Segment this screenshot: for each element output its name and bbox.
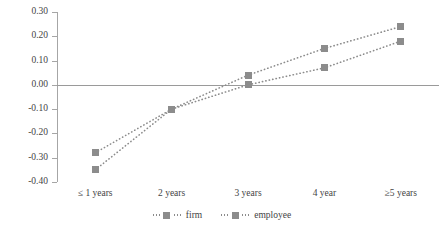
y-axis-line (57, 12, 58, 182)
y-tick (52, 182, 57, 183)
y-tick (52, 36, 57, 37)
y-tick (52, 133, 57, 134)
x-tick-label: ≤ 1 years (78, 188, 113, 198)
y-tick-label: 0.20 (8, 31, 48, 41)
data-point-employee (397, 38, 404, 45)
y-tick-label: 0.10 (8, 56, 48, 66)
x-tick-label: ≥5 years (385, 188, 417, 198)
y-tick-label: 0.00 (8, 80, 48, 90)
series-line-firm (95, 27, 401, 153)
y-tick (52, 109, 57, 110)
series-line-employee (95, 41, 401, 170)
x-tick-label: 2 years (158, 188, 185, 198)
data-point-firm (397, 23, 404, 30)
legend-item-firm[interactable]: firm (152, 210, 202, 220)
y-tick (52, 158, 57, 159)
data-point-firm (321, 45, 328, 52)
legend-label-firm: firm (186, 210, 202, 220)
data-point-firm (245, 72, 252, 79)
square-marker-icon (232, 212, 239, 219)
y-tick-label: -0.20 (8, 128, 48, 138)
x-tick-label: 4 year (313, 188, 336, 198)
x-tick-label: 3 years (234, 188, 261, 198)
y-tick (52, 61, 57, 62)
data-point-employee (92, 166, 99, 173)
legend-swatch-employee (220, 211, 250, 219)
y-tick-label: -0.10 (8, 104, 48, 114)
data-point-employee (245, 81, 252, 88)
chart-legend: firm employee (0, 210, 443, 220)
series-lines (0, 0, 443, 233)
data-point-employee (168, 106, 175, 113)
square-marker-icon (163, 212, 170, 219)
y-tick (52, 12, 57, 13)
y-tick-label: -0.30 (8, 153, 48, 163)
y-tick-label: -0.40 (8, 177, 48, 187)
legend-label-employee: employee (254, 210, 291, 220)
data-point-employee (321, 64, 328, 71)
legend-item-employee[interactable]: employee (220, 210, 291, 220)
legend-swatch-firm (152, 211, 182, 219)
chart-container: 0.300.200.100.00-0.10-0.20-0.30-0.40 ≤ 1… (0, 0, 443, 233)
y-tick-label: 0.30 (8, 7, 48, 17)
data-point-firm (92, 149, 99, 156)
y-tick (52, 85, 57, 86)
